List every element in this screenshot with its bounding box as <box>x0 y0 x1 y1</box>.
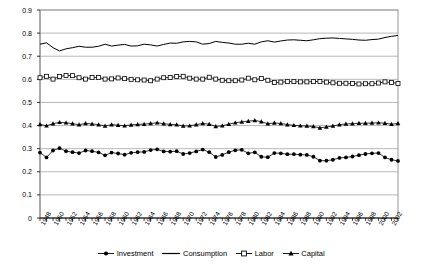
series-point-investment <box>103 153 107 157</box>
chart-container: 00.10.20.30.40.50.60.70.80.9 19481950195… <box>0 0 423 270</box>
series-point-labor <box>240 78 244 82</box>
plot-background <box>40 10 398 218</box>
series-point-investment <box>272 151 276 155</box>
series-point-labor <box>103 77 107 81</box>
series-point-labor <box>318 79 322 83</box>
y-axis-tick-label: 0.7 <box>6 53 32 60</box>
series-point-investment <box>253 150 257 154</box>
series-point-labor <box>233 79 237 83</box>
series-point-labor <box>259 76 263 80</box>
series-point-labor <box>77 76 81 80</box>
series-point-labor <box>292 80 296 84</box>
series-point-investment <box>194 150 198 154</box>
legend-marker-filled-triangle-icon <box>283 249 299 258</box>
series-point-investment <box>266 155 270 159</box>
series-point-investment <box>396 159 400 163</box>
chart-plot-area <box>0 0 423 270</box>
series-point-investment <box>51 149 55 153</box>
series-point-investment <box>129 151 133 155</box>
series-point-labor <box>246 76 250 80</box>
y-axis-tick-label: 0.8 <box>6 30 32 37</box>
series-point-labor <box>396 81 400 85</box>
series-point-labor <box>324 80 328 84</box>
series-point-labor <box>51 77 55 81</box>
series-point-labor <box>116 76 120 80</box>
series-point-labor <box>175 75 179 79</box>
y-axis-tick-label: 0.2 <box>6 168 32 175</box>
series-point-investment <box>292 152 296 156</box>
y-axis-tick-label: 0 <box>6 215 32 222</box>
legend-label: Capital <box>301 250 324 258</box>
series-point-investment <box>142 150 146 154</box>
series-point-labor <box>285 80 289 84</box>
series-point-investment <box>123 153 127 157</box>
legend-marker-open-square-icon <box>236 249 252 258</box>
series-point-investment <box>90 149 94 153</box>
series-point-investment <box>390 158 394 162</box>
series-point-labor <box>123 77 127 81</box>
series-point-labor <box>149 79 153 83</box>
series-point-labor <box>344 81 348 85</box>
legend-label: Investment <box>117 250 154 258</box>
legend-label: Consumption <box>183 250 227 258</box>
legend-label: Labor <box>255 250 274 258</box>
y-axis-tick-label: 0.1 <box>6 191 32 198</box>
series-point-labor <box>383 80 387 84</box>
series-point-investment <box>325 159 329 163</box>
series-point-investment <box>305 153 309 157</box>
series-point-investment <box>207 150 211 154</box>
series-point-investment <box>110 151 114 155</box>
series-point-labor <box>376 81 380 85</box>
series-point-labor <box>370 82 374 86</box>
series-point-investment <box>84 149 88 153</box>
series-point-investment <box>351 155 355 159</box>
series-point-labor <box>181 74 185 78</box>
series-point-investment <box>71 150 75 154</box>
series-point-labor <box>311 80 315 84</box>
series-point-investment <box>149 148 153 152</box>
series-point-labor <box>129 77 133 81</box>
series-point-labor <box>331 81 335 85</box>
series-point-investment <box>45 156 49 160</box>
series-point-labor <box>350 81 354 85</box>
series-point-investment <box>233 148 237 152</box>
series-point-investment <box>240 148 244 152</box>
series-point-investment <box>155 147 159 151</box>
series-point-labor <box>110 77 114 81</box>
series-point-investment <box>77 151 81 155</box>
series-point-labor <box>227 79 231 83</box>
series-point-labor <box>389 81 393 85</box>
series-point-labor <box>363 82 367 86</box>
series-point-investment <box>279 151 283 155</box>
series-point-investment <box>116 152 120 156</box>
series-point-investment <box>168 150 172 154</box>
series-point-labor <box>188 76 192 80</box>
series-point-investment <box>162 150 166 154</box>
series-point-labor <box>162 76 166 80</box>
y-axis-tick-label: 0.5 <box>6 99 32 106</box>
legend-item-capital: Capital <box>283 249 325 258</box>
series-point-labor <box>214 77 218 81</box>
series-point-investment <box>285 152 289 156</box>
series-point-investment <box>344 156 348 160</box>
series-point-investment <box>97 150 101 154</box>
series-point-investment <box>58 146 62 150</box>
series-point-labor <box>84 77 88 81</box>
series-point-investment <box>64 149 68 153</box>
series-point-investment <box>357 153 361 157</box>
series-point-investment <box>175 149 179 153</box>
series-point-investment <box>364 152 368 156</box>
series-point-investment <box>136 150 140 154</box>
chart-legend: InvestmentConsumptionLaborCapital <box>0 249 423 258</box>
series-point-labor <box>45 74 49 78</box>
series-point-investment <box>370 151 374 155</box>
series-point-investment <box>220 153 224 157</box>
series-point-labor <box>357 82 361 86</box>
series-point-labor <box>136 78 140 82</box>
series-point-investment <box>214 155 218 159</box>
series-point-labor <box>90 75 94 79</box>
legend-item-investment: Investment <box>98 249 153 258</box>
y-axis-tick-label: 0.3 <box>6 145 32 152</box>
series-point-labor <box>272 81 276 85</box>
series-point-investment <box>338 156 342 160</box>
